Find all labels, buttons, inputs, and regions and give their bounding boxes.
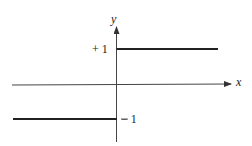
tick-label-minus-one: − 1 [121,113,137,125]
x-axis [12,84,231,85]
tick-label-plus-one: + 1 [92,43,108,55]
y-axis-label: y [111,13,116,25]
x-axis-label: x [236,76,241,88]
